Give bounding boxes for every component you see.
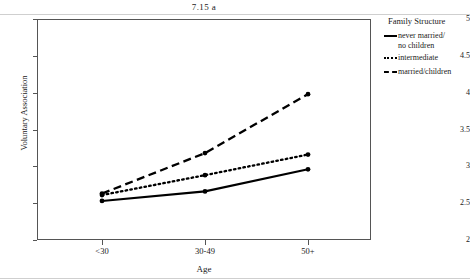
data-point-marker — [203, 189, 208, 194]
x-tick-label: 30-49 — [175, 246, 235, 256]
legend-entry-married-children[interactable]: married/children — [384, 67, 470, 78]
y-tick-label: 4 — [448, 88, 470, 97]
legend-label-line1: married/children — [398, 67, 451, 77]
legend-label-married-children: married/children — [398, 67, 451, 77]
data-point-marker — [306, 167, 311, 172]
legend-label-line2: no children — [398, 41, 445, 51]
plot-area — [37, 19, 371, 240]
data-point-marker — [203, 151, 208, 156]
y-tick-label: 2.5 — [448, 198, 470, 207]
data-point-marker — [100, 191, 105, 196]
chart-title: 7.15 a — [37, 2, 371, 12]
series-line — [102, 94, 308, 193]
series-layer — [100, 92, 311, 204]
y-tick-label: 3 — [448, 161, 470, 170]
y-tick-label: 3.5 — [448, 125, 470, 134]
top-divider-rule — [0, 14, 470, 15]
x-axis-label: Age — [37, 264, 371, 274]
x-tick-label: 50+ — [278, 246, 338, 256]
solid-line-key-icon — [384, 31, 397, 42]
legend-entry-never-married[interactable]: never married/ no children — [384, 31, 470, 50]
dashed-line-key-icon — [384, 67, 397, 78]
legend-label-line1: never married/ — [398, 31, 445, 41]
data-point-marker — [100, 199, 105, 204]
legend-title: Family Structure — [388, 16, 470, 26]
legend-label-never-married: never married/ no children — [398, 31, 445, 50]
data-point-marker — [306, 152, 311, 157]
legend-entry-intermediate[interactable]: intermediate — [384, 53, 470, 64]
x-tick-label: <30 — [72, 246, 132, 256]
y-tick-label: 2 — [448, 235, 470, 244]
y-axis-label: Voluntary Association — [19, 53, 29, 173]
figure-container: 7.15 a Voluntary Association 22.533.544.… — [0, 0, 470, 280]
x-tick-mark — [205, 240, 206, 245]
dotted-line-key-icon — [384, 53, 397, 64]
bottom-divider-rule — [0, 278, 470, 279]
y-tick-mark — [33, 240, 37, 241]
data-point-marker — [203, 173, 208, 178]
x-tick-mark — [102, 240, 103, 245]
legend: Family Structure never married/ no child… — [384, 16, 470, 81]
data-point-marker — [306, 92, 311, 97]
x-tick-mark — [308, 240, 309, 245]
legend-label-line1: intermediate — [398, 53, 438, 63]
legend-label-intermediate: intermediate — [398, 53, 438, 63]
